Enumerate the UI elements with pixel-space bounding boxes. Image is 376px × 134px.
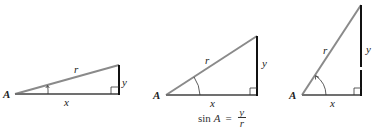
vertex-label-a: A	[2, 88, 10, 100]
angle-arc-icon	[194, 77, 200, 95]
sine-formula: sin A = y r	[198, 107, 246, 128]
right-angle-marker	[354, 88, 361, 95]
vertex-label-a: A	[152, 89, 160, 101]
hypotenuse-line	[302, 5, 361, 95]
hypotenuse-label-r: r	[205, 54, 210, 66]
opposite-label-y: y	[261, 57, 267, 69]
triangle-medium-angle	[166, 36, 257, 96]
triangle-small-angle	[15, 65, 119, 95]
right-angle-marker	[111, 87, 119, 94]
hypotenuse-line	[166, 36, 257, 95]
triangles-figure: A r x y A r x y A r x y	[0, 0, 376, 134]
fraction: y r	[238, 107, 246, 128]
opposite-label-y: y	[365, 43, 371, 55]
denominator: r	[240, 118, 244, 128]
hypotenuse-label-r: r	[323, 44, 328, 56]
arrowhead-icon	[316, 76, 320, 80]
numerator: y	[239, 107, 244, 117]
opposite-label-y: y	[121, 76, 127, 88]
adjacent-label-x: x	[329, 97, 335, 109]
sin-function: sin	[198, 112, 211, 124]
equals-sign: =	[226, 112, 232, 124]
right-angle-marker	[250, 88, 257, 95]
angle-arc-icon	[316, 76, 326, 95]
formula-variable: A	[214, 112, 221, 124]
triangle-large-angle	[302, 5, 361, 96]
vertex-label-a: A	[288, 89, 296, 101]
hypotenuse-line	[15, 65, 119, 94]
adjacent-label-x: x	[63, 96, 69, 108]
hypotenuse-label-r: r	[74, 63, 79, 75]
